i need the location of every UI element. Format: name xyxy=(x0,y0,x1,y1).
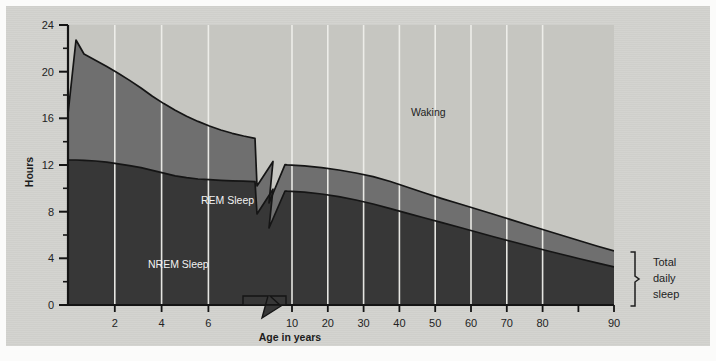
x-tick-label-60: 60 xyxy=(465,317,477,329)
y-tick-label-16: 16 xyxy=(42,112,54,124)
x-tick-label-10: 10 xyxy=(286,317,298,329)
chart-canvas: 0 4 8 12 16 20 24 Hours xyxy=(0,0,716,361)
label-rem-sleep: REM Sleep xyxy=(201,194,254,206)
x-axis: 2 4 6 10 20 30 40 50 60 70 80 90 Age in … xyxy=(68,305,620,343)
y-tick-label-8: 8 xyxy=(48,206,54,218)
x-tick-label-70: 70 xyxy=(501,317,513,329)
label-waking: Waking xyxy=(411,106,446,118)
y-tick-label-4: 4 xyxy=(48,252,54,264)
sleep-chart-figure: 0 4 8 12 16 20 24 Hours xyxy=(0,0,716,361)
y-major-ticks xyxy=(59,25,68,305)
x-tick-label-40: 40 xyxy=(393,317,405,329)
label-nrem-sleep: NREM Sleep xyxy=(148,258,209,270)
label-total-daily-sleep-line2: daily xyxy=(653,272,676,284)
y-axis-title: Hours xyxy=(23,157,35,187)
x-tick-label-2: 2 xyxy=(112,317,118,329)
x-tick-label-20: 20 xyxy=(322,317,334,329)
axis-break-marker xyxy=(243,296,286,318)
x-tick-label-80: 80 xyxy=(536,317,548,329)
label-total-daily-sleep-line3: sleep xyxy=(653,288,679,300)
x-tick-label-6: 6 xyxy=(205,317,211,329)
label-total-daily-sleep-line1: Total xyxy=(653,256,676,268)
x-tick-label-90: 90 xyxy=(608,317,620,329)
y-tick-label-24: 24 xyxy=(42,19,54,31)
x-axis-title: Age in years xyxy=(259,331,322,343)
y-tick-label-0: 0 xyxy=(48,299,54,311)
x-tick-label-50: 50 xyxy=(429,317,441,329)
y-axis: 0 4 8 12 16 20 24 Hours xyxy=(23,19,68,311)
total-daily-sleep-bracket xyxy=(631,252,639,306)
x-tick-label-30: 30 xyxy=(357,317,369,329)
y-tick-label-20: 20 xyxy=(42,66,54,78)
y-tick-label-12: 12 xyxy=(42,159,54,171)
x-tick-label-4: 4 xyxy=(159,317,165,329)
